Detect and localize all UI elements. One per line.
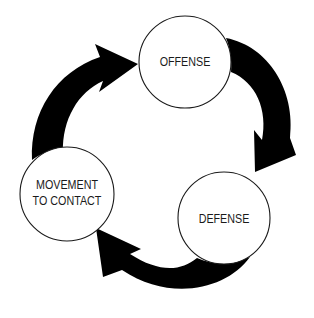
node-defense: DEFENSE — [178, 172, 270, 264]
movement-to-contact-label-line-1: MOVEMENT — [36, 177, 98, 191]
movement-to-contact-label-line-2: TO CONTACT — [33, 193, 102, 207]
arrow-offense-to-defense-icon — [226, 38, 296, 172]
cycle-diagram: OFFENSE MOVEMENT TO CONTACT DEFENSE — [0, 0, 314, 318]
node-offense: OFFENSE — [139, 16, 231, 108]
offense-label: OFFENSE — [160, 54, 211, 68]
arrow-movement-to-offense-icon — [32, 44, 138, 160]
node-movement-to-contact: MOVEMENT TO CONTACT — [20, 147, 114, 241]
defense-label: DEFENSE — [199, 211, 250, 225]
